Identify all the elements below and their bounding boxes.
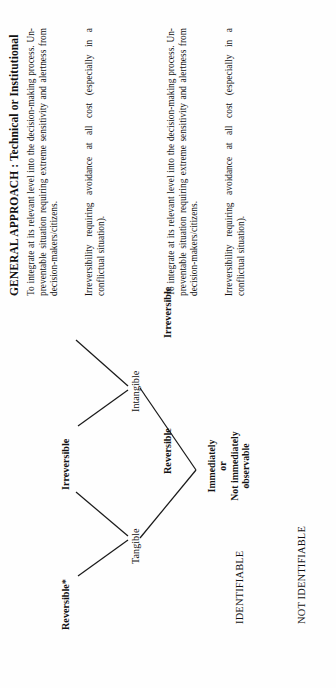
category-identifiable: IDENTIFIABLE bbox=[234, 551, 245, 624]
root-line-not-immediately: Not immediately bbox=[229, 408, 240, 524]
node-intangible: Intangible bbox=[130, 371, 141, 412]
node-intangible-reversible: Reversible bbox=[162, 428, 173, 474]
category-not-identifiable: NOT IDENTIFIABLE bbox=[296, 526, 307, 624]
edge-tangible-irreversible bbox=[76, 492, 128, 536]
edge-intangible-irreversible bbox=[76, 340, 128, 386]
description-tangible-irreversible: Irreversibility requiring avoidance at a… bbox=[84, 28, 107, 296]
description-tangible-reversible: To integrate at its relevant level into … bbox=[26, 28, 61, 296]
root-line-immediately: Immediately bbox=[206, 408, 217, 524]
node-intangible-irreversible: Irreversible bbox=[162, 287, 173, 338]
edge-root-tangible bbox=[140, 470, 196, 538]
root-line-observable: observable bbox=[240, 408, 251, 524]
description-intangible-reversible: To integrate at its relevant level into … bbox=[166, 28, 201, 296]
description-intangible-irreversible: Irreversibility requiring avoidance at a… bbox=[224, 28, 247, 296]
diagram-page: GENERAL APPROACH : Technical or Institut… bbox=[0, 0, 336, 688]
page-viewport: GENERAL APPROACH : Technical or Institut… bbox=[0, 0, 336, 688]
node-tangible-reversible: Reversible* bbox=[60, 579, 71, 630]
edge-tangible-reversible bbox=[78, 540, 128, 576]
column-header: GENERAL APPROACH : Technical or Institut… bbox=[8, 35, 20, 296]
node-tangible-irreversible: Irreversible bbox=[60, 439, 71, 490]
root-line-or: or bbox=[217, 408, 228, 524]
node-tangible: Tangible bbox=[130, 529, 141, 565]
edge-intangible-reversible bbox=[78, 390, 128, 426]
